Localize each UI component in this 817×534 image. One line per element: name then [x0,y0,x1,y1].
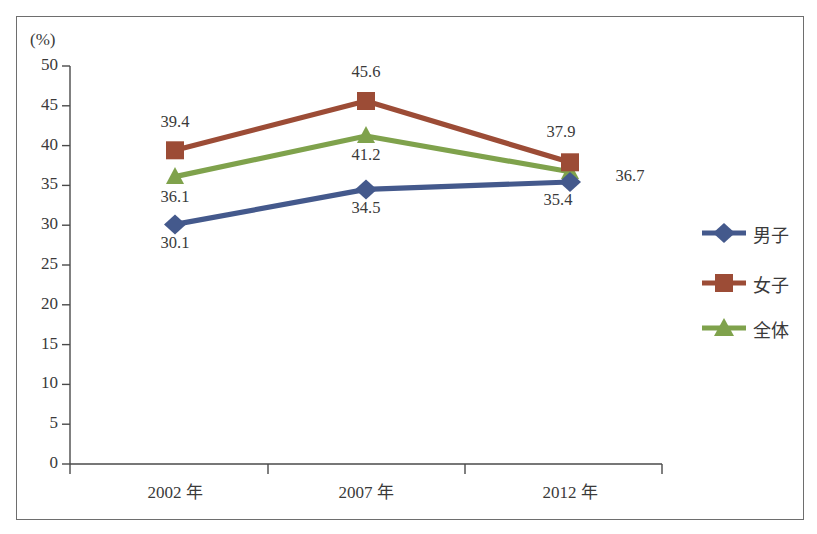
marker-male-2012 [559,172,581,192]
y-tick-label-5: 5 [14,413,58,433]
x-tick-label-2002: 2002 年 [115,478,235,503]
x-tick-label-2012: 2012 年 [510,478,630,503]
data-label-total-2012: 36.7 [585,166,675,186]
legend-item-total[interactable]: 全体 [753,316,789,342]
chart-page: (%) 50 45 40 35 30 25 20 15 10 5 0 2002 … [0,0,817,534]
data-label-female-2002: 39.4 [130,112,220,132]
legend-item-female[interactable]: 女子 [753,271,789,297]
y-tick-label-45: 45 [14,95,58,115]
y-tick-label-30: 30 [14,214,58,234]
data-label-female-2007: 45.6 [321,62,411,82]
x-axis-ticks [70,464,662,474]
marker-female-2002 [166,141,184,159]
y-tick-label-25: 25 [14,254,58,274]
data-label-total-2007: 41.2 [321,145,411,165]
x-tick-label-2007: 2007 年 [306,478,426,503]
marker-male-2002 [164,214,186,234]
legend-marker-male-diamond [713,223,735,243]
chart-canvas: (%) 50 45 40 35 30 25 20 15 10 5 0 2002 … [0,0,817,534]
data-label-total-2002: 36.1 [130,187,220,207]
y-tick-label-50: 50 [14,55,58,75]
data-label-female-2012: 37.9 [516,122,606,142]
data-label-male-2012: 35.4 [513,190,603,210]
legend-marker-female-square [715,274,733,292]
y-axis-unit-label: (%) [30,30,55,50]
y-tick-label-10: 10 [14,373,58,393]
legend-item-male[interactable]: 男子 [753,221,789,247]
y-tick-label-20: 20 [14,294,58,314]
data-label-male-2007: 34.5 [321,198,411,218]
marker-female-2007 [357,92,375,110]
y-axis-ticks [62,66,70,464]
y-tick-label-15: 15 [14,334,58,354]
y-tick-label-35: 35 [14,174,58,194]
marker-female-2012 [561,153,579,171]
y-tick-label-0: 0 [14,453,58,473]
y-tick-label-40: 40 [14,135,58,155]
marker-male-2007 [355,179,377,199]
legend-markers [702,223,746,336]
data-label-male-2002: 30.1 [130,233,220,253]
